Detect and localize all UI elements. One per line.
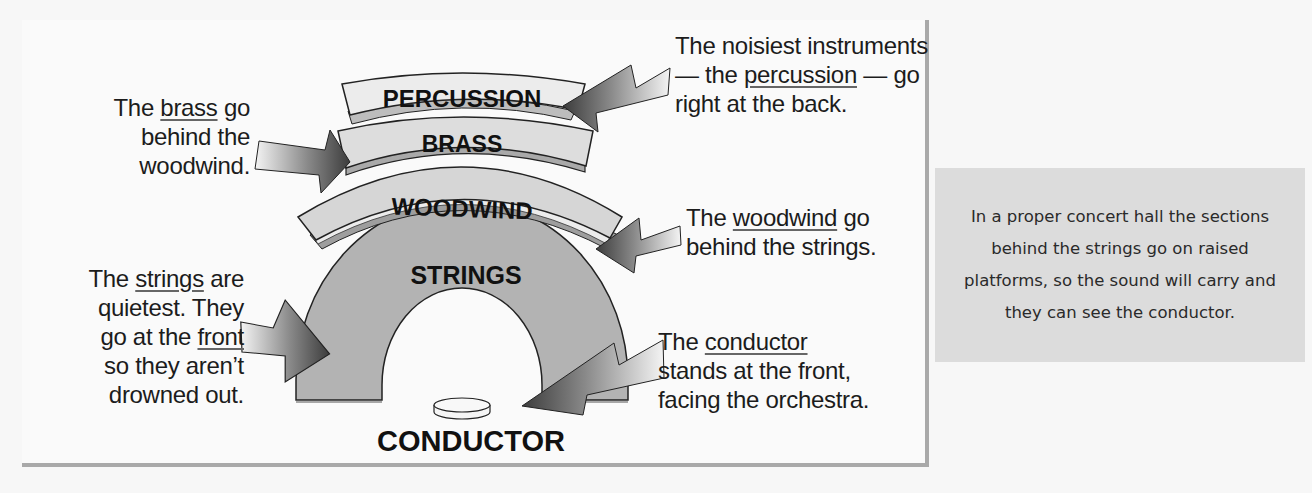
- percussion-arrow-icon: [563, 65, 670, 132]
- woodwind-label: WOODWIND: [391, 193, 533, 225]
- side-note: In a proper concert hall the sections be…: [935, 168, 1305, 362]
- percussion-keyword: percussion: [744, 61, 857, 88]
- woodwind-annotation: The woodwind go behind the strings.: [686, 203, 926, 261]
- strings-annotation: The strings are quietest. They go at the…: [40, 264, 244, 409]
- brass-label: BRASS: [422, 131, 503, 157]
- side-note-text: In a proper concert hall the sections be…: [950, 201, 1290, 329]
- front-keyword: front: [197, 323, 244, 350]
- percussion-label: PERCUSSION: [383, 85, 542, 112]
- conductor-podium: [434, 398, 490, 419]
- percussion-annotation: The noisiest instruments — the percussio…: [675, 31, 935, 118]
- brass-keyword: brass: [160, 94, 217, 121]
- conductor-keyword: conductor: [705, 328, 808, 355]
- brass-annotation: The brass go behind the woodwind.: [60, 93, 250, 180]
- conductor-annotation: The conductor stands at the front, facin…: [658, 327, 918, 414]
- conductor-label: CONDUCTOR: [377, 425, 565, 457]
- strings-label: STRINGS: [410, 261, 521, 289]
- woodwind-keyword: woodwind: [733, 204, 837, 231]
- brass-arrow-icon: [255, 130, 350, 193]
- strings-keyword: strings: [135, 265, 204, 292]
